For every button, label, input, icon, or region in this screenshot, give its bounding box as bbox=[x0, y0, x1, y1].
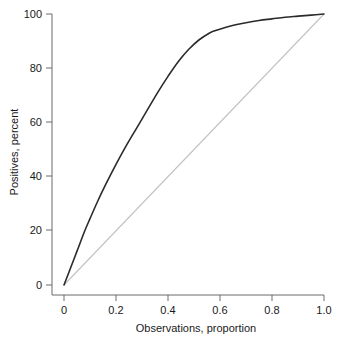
y-axis-tick-labels: 100 80 60 40 20 0 bbox=[24, 8, 42, 291]
reference-diagonal-line bbox=[64, 14, 324, 285]
x-tick-label-1-0: 1.0 bbox=[316, 304, 331, 316]
y-tick-label-40: 40 bbox=[30, 170, 42, 182]
x-axis-tick-labels: 0 0.2 0.4 0.6 0.8 1.0 bbox=[61, 304, 332, 316]
x-axis-ticks bbox=[64, 295, 324, 301]
y-tick-label-0: 0 bbox=[36, 279, 42, 291]
y-axis-title: Positives, percent bbox=[8, 109, 20, 196]
x-tick-label-0: 0 bbox=[61, 304, 67, 316]
x-axis-title: Observations, proportion bbox=[136, 322, 256, 334]
chart-container: 100 80 60 40 20 0 0 0.2 0.4 0.6 0.8 1.0 bbox=[0, 0, 343, 342]
y-tick-label-60: 60 bbox=[30, 116, 42, 128]
x-tick-label-0-2: 0.2 bbox=[108, 304, 123, 316]
y-tick-label-100: 100 bbox=[24, 8, 42, 20]
cumulative-gains-chart: 100 80 60 40 20 0 0 0.2 0.4 0.6 0.8 1.0 bbox=[0, 0, 343, 342]
x-tick-label-0-4: 0.4 bbox=[160, 304, 175, 316]
x-tick-label-0-6: 0.6 bbox=[212, 304, 227, 316]
y-tick-label-80: 80 bbox=[30, 62, 42, 74]
y-axis-ticks bbox=[46, 14, 52, 285]
y-tick-label-20: 20 bbox=[30, 224, 42, 236]
axis-corner-join bbox=[52, 285, 64, 295]
x-tick-label-0-8: 0.8 bbox=[264, 304, 279, 316]
